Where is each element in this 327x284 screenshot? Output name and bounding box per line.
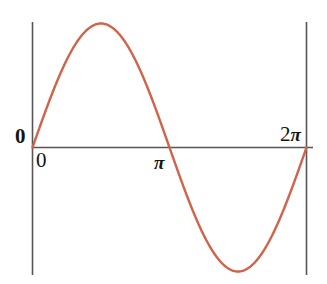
x-axis-zero-label: 0 [36,150,47,171]
two-pi-symbol: π [291,124,301,145]
x-axis-pi-label: π [154,153,164,172]
y-axis-zero-label: 0 [15,126,26,147]
x-axis-two-pi-label: 2π [280,124,301,145]
two-pi-number: 2 [280,122,291,146]
sine-wave-figure: 0 0 π 2π [0,0,327,284]
plot-canvas [0,0,327,284]
